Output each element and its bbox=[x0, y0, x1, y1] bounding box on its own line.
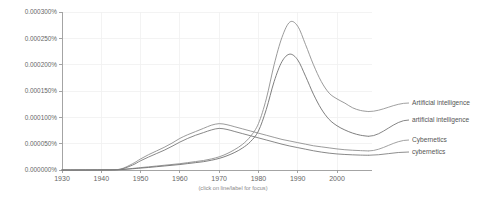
y-tick-label: 0.000300% bbox=[25, 8, 58, 15]
legend-leader-line bbox=[368, 103, 409, 112]
ngram-viewer-chart: 0.000000%0.000050%0.000100%0.000150%0.00… bbox=[0, 0, 482, 202]
x-tick-label: 1950 bbox=[133, 175, 149, 182]
legend[interactable]: Artificial intelligenceartificial intell… bbox=[368, 99, 470, 156]
legend-label[interactable]: artificial intelligence bbox=[412, 116, 470, 124]
legend-leader-line bbox=[368, 140, 409, 151]
x-tick-label: 1970 bbox=[211, 175, 227, 182]
chart-caption: (click on line/label for focus) bbox=[198, 185, 267, 191]
x-tick-label: 2000 bbox=[329, 175, 345, 182]
x-tick-label: 1960 bbox=[172, 175, 188, 182]
x-tick-label: 1990 bbox=[290, 175, 306, 182]
gridlines bbox=[62, 12, 372, 170]
y-tick-label: 0.000100% bbox=[25, 114, 58, 121]
y-axis-ticks: 0.000000%0.000050%0.000100%0.000150%0.00… bbox=[25, 8, 62, 173]
series-line[interactable] bbox=[62, 21, 368, 170]
legend-leader-line bbox=[368, 152, 409, 155]
y-tick-label: 0.000000% bbox=[25, 166, 58, 173]
y-tick-label: 0.000150% bbox=[25, 87, 58, 94]
y-tick-label: 0.000250% bbox=[25, 35, 58, 42]
x-tick-label: 1980 bbox=[251, 175, 267, 182]
series-line[interactable] bbox=[62, 124, 368, 170]
legend-label[interactable]: Cybernetics bbox=[412, 136, 448, 144]
x-axis-ticks: 19301940195019601970198019902000 bbox=[54, 170, 345, 182]
x-tick-label: 1940 bbox=[93, 175, 109, 182]
series-line[interactable] bbox=[62, 128, 368, 170]
y-tick-label: 0.000200% bbox=[25, 61, 58, 68]
chart-canvas: 0.000000%0.000050%0.000100%0.000150%0.00… bbox=[0, 0, 482, 202]
y-tick-label: 0.000050% bbox=[25, 140, 58, 147]
x-tick-label: 1930 bbox=[54, 175, 70, 182]
legend-leader-line bbox=[368, 120, 409, 136]
series-lines[interactable] bbox=[62, 21, 368, 170]
legend-label[interactable]: cybernetics bbox=[412, 148, 446, 156]
legend-label[interactable]: Artificial intelligence bbox=[412, 99, 470, 107]
